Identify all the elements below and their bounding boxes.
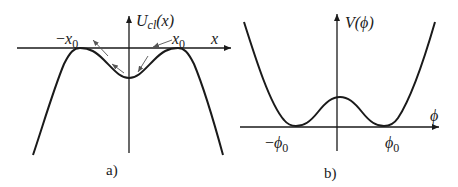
panel-b-y-label: V(ϕ) bbox=[345, 14, 374, 32]
panel-a-potential-curve bbox=[33, 48, 223, 155]
panel-a-arrow-down-right bbox=[138, 56, 148, 72]
panel-a-arrow-mid-left bbox=[112, 64, 124, 73]
panel-b-caption: b) bbox=[324, 165, 337, 182]
panel-b-x-label: ϕ bbox=[430, 107, 438, 125]
panel-a-y-label: Ucl(x) bbox=[136, 12, 174, 32]
panel-b: V(ϕ) ϕ −ϕ0 ϕ0 b) bbox=[240, 14, 439, 182]
panel-b-potential-curve bbox=[244, 22, 435, 126]
panel-a: Ucl(x) −x0 x0 x a) bbox=[17, 12, 231, 179]
panel-b-left-marker: −ϕ0 bbox=[265, 134, 288, 155]
figure: Ucl(x) −x0 x0 x a) V(ϕ) ϕ −ϕ0 ϕ0 b) bbox=[0, 0, 458, 187]
panel-a-caption: a) bbox=[106, 162, 118, 179]
panel-a-arrow-pointer-x0 bbox=[153, 40, 172, 47]
panel-a-x-label: x bbox=[210, 30, 218, 47]
panel-b-right-marker: ϕ0 bbox=[385, 134, 399, 155]
